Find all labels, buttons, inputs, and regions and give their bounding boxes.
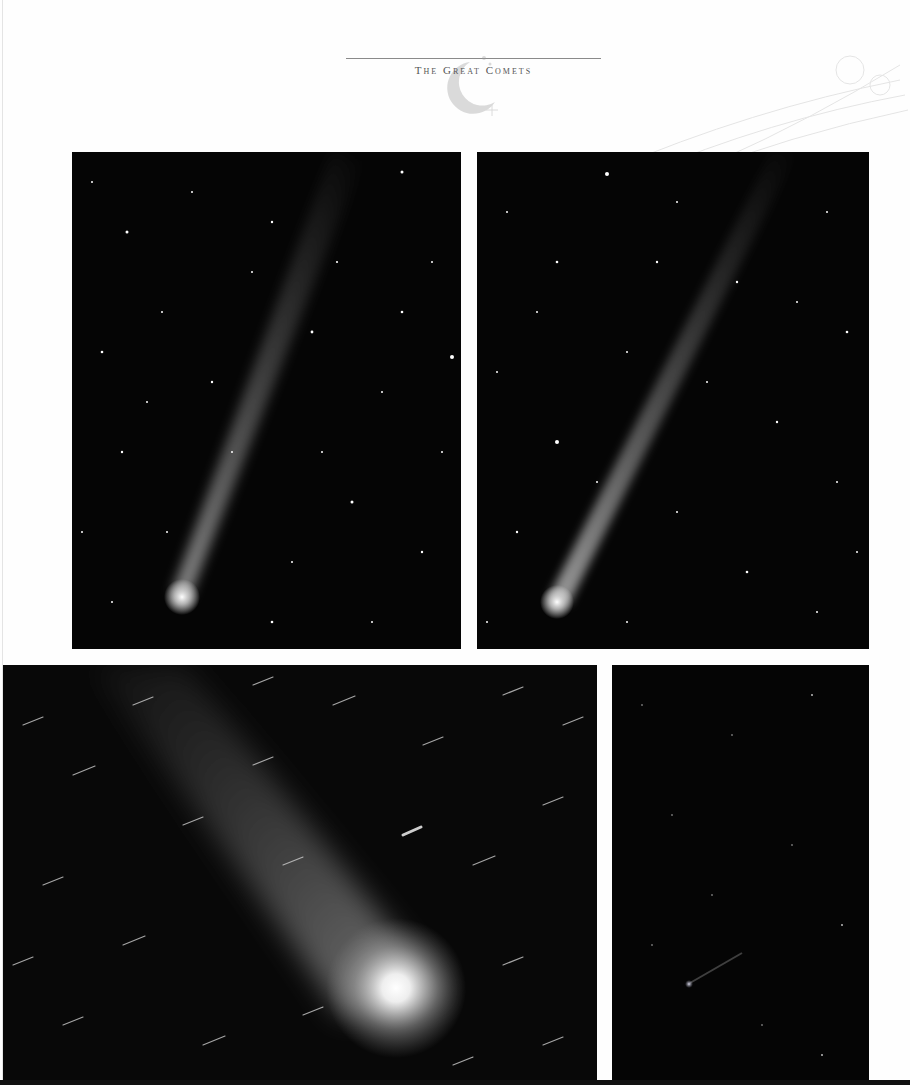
page-header-title: The Great Comets — [346, 64, 601, 76]
comet-photo-bottom-right — [612, 665, 869, 1080]
comet-photo-top-left — [72, 152, 461, 649]
comet-photo-bottom-left — [3, 665, 597, 1080]
page-bottom-edge — [0, 1080, 910, 1085]
comet-photo-top-right — [477, 152, 869, 649]
crescent-moon-icon — [440, 52, 500, 122]
